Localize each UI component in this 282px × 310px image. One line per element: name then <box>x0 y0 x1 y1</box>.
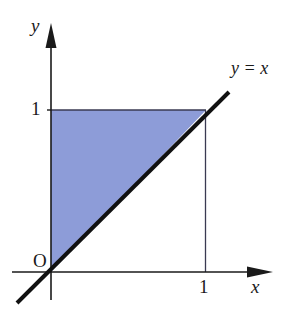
line-equation-label: y = x <box>231 59 268 77</box>
y-axis-tick-label-1: 1 <box>31 99 41 118</box>
y-axis-label: y <box>31 16 39 35</box>
math-figure: y x 1 1 O y = x <box>0 0 282 310</box>
origin-label: O <box>33 251 47 270</box>
x-axis-tick-label-1: 1 <box>199 277 209 296</box>
x-axis-label: x <box>251 277 259 296</box>
y-axis-arrowhead <box>46 23 57 48</box>
